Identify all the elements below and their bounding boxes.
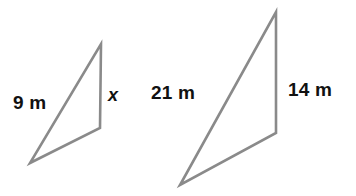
geometry-figure: 9 m x 21 m 14 m	[0, 0, 356, 196]
small-triangle-vertical-label: x	[108, 86, 118, 104]
small-triangle-hypotenuse-label: 9 m	[13, 93, 46, 112]
large-triangle-vertical-label: 14 m	[288, 80, 332, 99]
large-triangle-hypotenuse-label: 21 m	[151, 83, 195, 102]
